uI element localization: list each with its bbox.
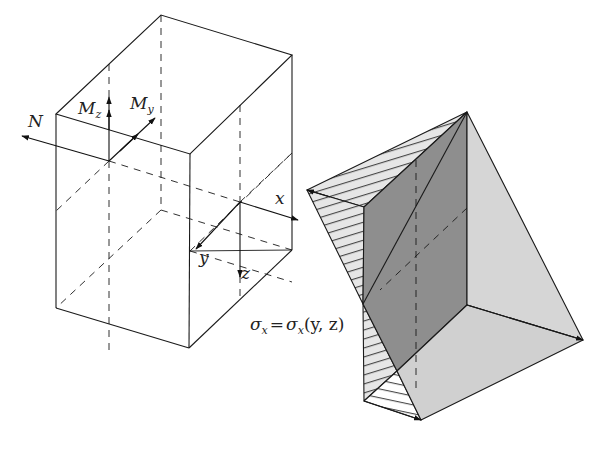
label-My: My (129, 93, 154, 116)
My-arrow-inner (120, 134, 138, 151)
stress-formula-label: σx=σx(y, z) (250, 314, 344, 337)
labels: N Mz My x y z σx=σx(y, z) (27, 93, 344, 337)
N-arrow (22, 136, 109, 161)
stress-distribution (307, 112, 583, 420)
label-N: N (27, 111, 44, 131)
stress-right-face (467, 112, 583, 340)
label-Mz: Mz (77, 98, 101, 121)
label-z: z (240, 263, 251, 283)
label-x: x (275, 188, 285, 208)
x-axis-arrow (240, 202, 298, 220)
diagram-svg: N Mz My x y z σx=σx(y, z) (0, 0, 605, 456)
beam-hidden-lines (56, 15, 292, 355)
label-y: y (198, 247, 209, 267)
beam-top-face (56, 15, 292, 154)
stress-left-hatched-face (307, 190, 364, 304)
y-axis-arrow (196, 202, 240, 249)
diagram-canvas: N Mz My x y z σx=σx(y, z) (0, 0, 605, 456)
